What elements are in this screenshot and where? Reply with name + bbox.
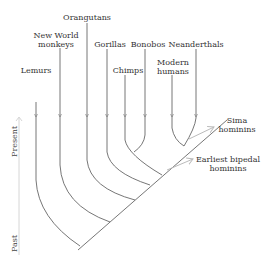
branch-bonobos (134, 49, 145, 152)
label-modern-humans-line1: Modern (157, 58, 189, 67)
label-sima-hominins: Sima hominins (218, 116, 255, 134)
label-lemurs: Lemurs (21, 66, 52, 75)
main-stem-branch (78, 120, 227, 250)
label-bipedal-line1: Earliest bipedal (196, 155, 260, 164)
label-new-world-monkeys-line2: monkeys (33, 40, 78, 49)
label-sima-line2: hominins (218, 125, 255, 134)
label-chimps: Chimps (113, 66, 144, 75)
label-new-world-monkeys: New World monkeys (33, 31, 78, 49)
branch-orangutans (87, 23, 135, 200)
label-earliest-bipedal-hominins: Earliest bipedal hominins (196, 155, 260, 173)
tip-arrows (35, 114, 198, 117)
axis-label-past: Past (10, 235, 19, 252)
label-modern-humans-line2: humans (157, 67, 189, 76)
label-gorillas: Gorillas (94, 40, 126, 49)
axis-label-present: Present (10, 126, 19, 157)
branch-modern-humans (172, 75, 184, 146)
branch-lemurs (36, 102, 80, 246)
label-bonobos: Bonobos (131, 40, 166, 49)
branch-new-world-monkeys (60, 48, 110, 222)
label-neanderthals: Neanderthals (168, 40, 223, 49)
branch-chimps (125, 75, 162, 175)
label-orangutans: Orangutans (63, 13, 111, 22)
label-bipedal-line2: hominins (196, 164, 260, 173)
label-sima-line1: Sima (218, 116, 255, 125)
phylogenetic-tree-diagram: Lemurs New World monkeys Orangutans Gori… (0, 0, 269, 269)
label-new-world-monkeys-line1: New World (33, 31, 78, 40)
label-modern-humans: Modern humans (157, 58, 189, 76)
